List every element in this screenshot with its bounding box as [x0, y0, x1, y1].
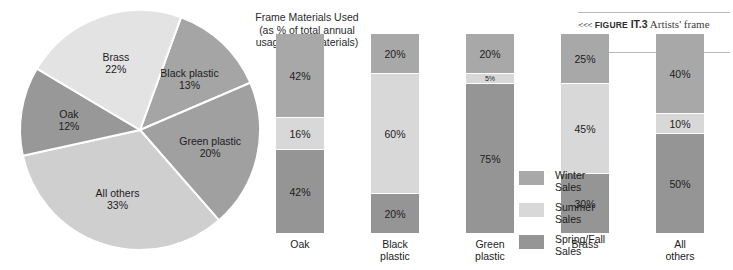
stacked-bar-chart: 42%16%42%Oak20%60%20%Black plastic20%5%7…	[276, 14, 516, 270]
caption-figure-word: Figure	[595, 20, 628, 30]
bar-stack: 20%60%20%Black plastic	[371, 34, 419, 234]
chart-legend: Winter SalesSummer SalesSpring/Fall Sale…	[519, 170, 605, 266]
bar-stack: 42%16%42%Oak	[276, 34, 324, 234]
bar-segment: 42%	[276, 150, 324, 234]
bar-segment: 20%	[466, 34, 514, 74]
bar-segment: 50%	[656, 134, 704, 234]
bar-segment: 25%	[561, 34, 609, 84]
bar-segment: 10%	[656, 114, 704, 134]
caption-figure-number: IT.3	[631, 18, 648, 30]
legend-swatch	[519, 171, 544, 185]
bar-segment: 5%	[466, 74, 514, 84]
legend-item: Spring/Fall Sales	[519, 234, 605, 257]
bar-segment: 60%	[371, 74, 419, 194]
legend-item: Winter Sales	[519, 170, 605, 193]
bar-category-label: Oak	[270, 234, 330, 250]
legend-label: Winter Sales	[555, 170, 585, 193]
bar-segment: 40%	[656, 34, 704, 114]
bar-category-label: Black plastic	[365, 234, 425, 262]
legend-label: Spring/Fall Sales	[555, 234, 605, 257]
bar-segment: 16%	[276, 118, 324, 150]
bar-segment: 20%	[371, 194, 419, 234]
caption-chevrons-icon: <<<	[578, 20, 592, 30]
legend-item: Summer Sales	[519, 202, 605, 225]
bar-stack: 20%5%75%Green plastic	[466, 34, 514, 234]
bar-stack: 40%10%50%All others	[656, 34, 704, 234]
pie-slice-label: Oak12%	[58, 108, 79, 132]
pie-slice-label: Brass22%	[102, 51, 129, 75]
bar-segment: 45%	[561, 84, 609, 174]
legend-swatch	[519, 235, 544, 249]
bar-category-label: Green plastic	[460, 234, 520, 262]
legend-swatch	[519, 203, 544, 217]
bar-segment: 42%	[276, 34, 324, 118]
bar-segment: 20%	[371, 34, 419, 74]
bar-category-label: All others	[650, 234, 710, 262]
legend-label: Summer Sales	[555, 202, 595, 225]
bar-segment: 75%	[466, 84, 514, 234]
